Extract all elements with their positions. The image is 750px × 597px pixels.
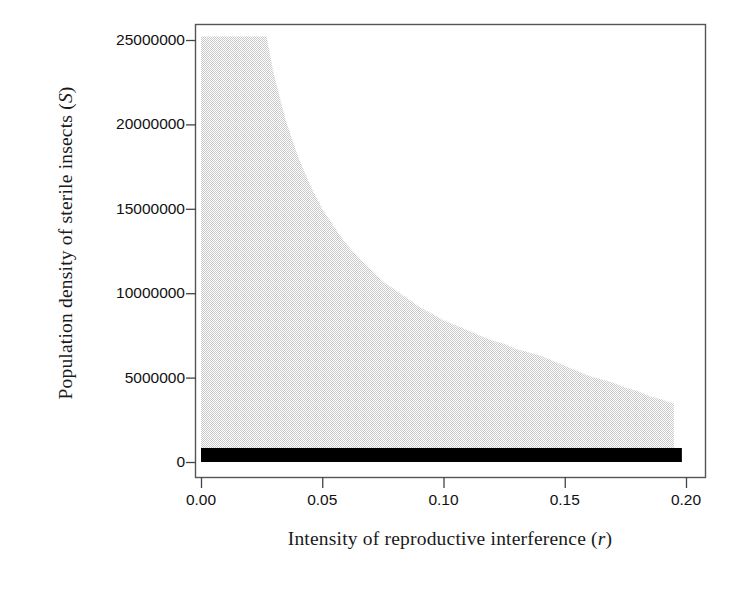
shaded-region-coexistence: [201, 37, 674, 448]
plot-area: [0, 0, 750, 597]
extinction-band: [201, 448, 682, 462]
figure-canvas: Population density of sterile insects (S…: [0, 0, 750, 597]
